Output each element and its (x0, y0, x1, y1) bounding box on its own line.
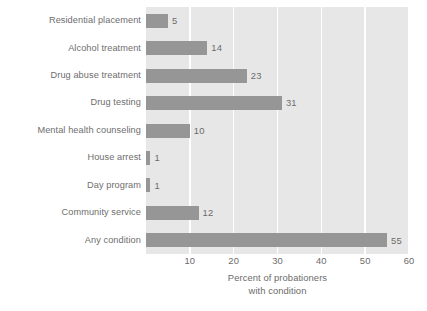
x-tick-label: 60 (404, 256, 415, 265)
bar (146, 206, 199, 220)
category-label: Drug testing (0, 98, 141, 107)
bar (146, 124, 190, 138)
bar (146, 151, 150, 165)
bar-value-label: 1 (154, 153, 159, 162)
gridline (277, 7, 279, 254)
category-label: Mental health counseling (0, 126, 141, 135)
bar-value-label: 31 (286, 98, 297, 107)
bar-chart: Residential placement Alcohol treatment … (0, 0, 427, 311)
bar (146, 178, 150, 192)
category-label: Alcohol treatment (0, 44, 141, 53)
x-tick-label: 20 (228, 256, 239, 265)
x-axis-ticks: 10 20 30 40 50 60 (146, 256, 409, 270)
bar-value-label: 5 (172, 16, 177, 25)
category-label: Any condition (0, 236, 141, 245)
category-axis-labels: Residential placement Alcohol treatment … (0, 7, 141, 254)
bar-value-label: 55 (391, 236, 402, 245)
bar-value-label: 23 (251, 71, 262, 80)
category-label: Day program (0, 181, 141, 190)
plot-area (146, 7, 409, 254)
category-label: Residential placement (0, 16, 141, 25)
x-axis-title: Percent of probationers with condition (146, 272, 409, 297)
category-label: Drug abuse treatment (0, 71, 141, 80)
bar (146, 41, 207, 55)
x-tick-label: 10 (185, 256, 196, 265)
x-axis-title-line2: with condition (146, 285, 409, 298)
x-tick-label: 50 (360, 256, 371, 265)
gridline (364, 7, 366, 254)
bar-value-label: 14 (211, 43, 222, 52)
bar (146, 96, 282, 110)
category-label: House arrest (0, 153, 141, 162)
bar (146, 14, 168, 28)
gridline (408, 7, 410, 254)
bar (146, 69, 247, 83)
bar-value-label: 12 (203, 208, 214, 217)
x-tick-label: 40 (316, 256, 327, 265)
bar-value-label: 10 (194, 126, 205, 135)
bar (146, 233, 387, 247)
gridline (233, 7, 235, 254)
gridline (321, 7, 323, 254)
x-axis-title-line1: Percent of probationers (146, 272, 409, 285)
bar-value-label: 1 (154, 181, 159, 190)
x-tick-label: 30 (272, 256, 283, 265)
category-label: Community service (0, 208, 141, 217)
